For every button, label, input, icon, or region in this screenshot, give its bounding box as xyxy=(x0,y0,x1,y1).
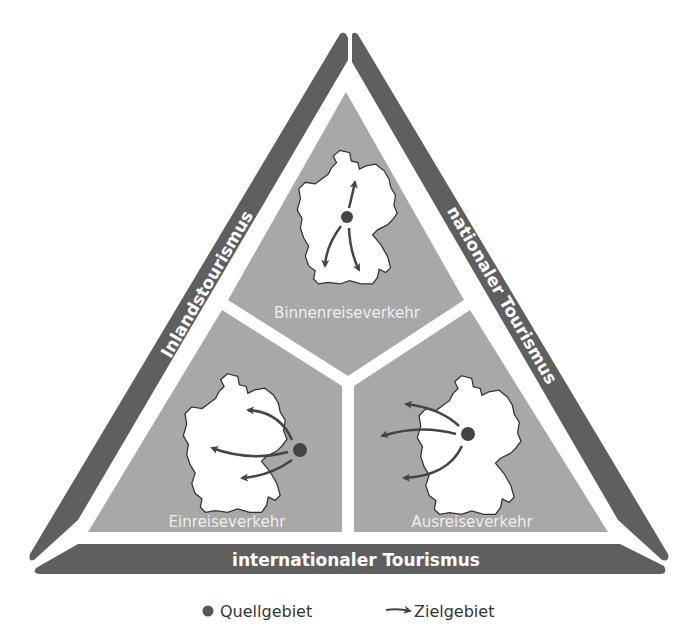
tourism-triangle-diagram: Binnenreiseverkehr Einreiseverkehr Ausre… xyxy=(0,0,689,626)
legend: Quellgebiet Zielgebiet xyxy=(203,602,495,621)
label-einreiseverkehr: Einreiseverkehr xyxy=(169,513,287,531)
source-dot-icon xyxy=(293,443,307,457)
source-dot-icon xyxy=(341,211,353,223)
label-ausreiseverkehr: Ausreiseverkehr xyxy=(411,513,533,531)
arrow-icon xyxy=(386,609,410,611)
source-dot-icon xyxy=(461,427,475,441)
legend-source-label: Quellgebiet xyxy=(220,602,312,621)
label-binnenreiseverkehr: Binnenreiseverkehr xyxy=(274,304,421,322)
source-dot-icon xyxy=(203,606,214,617)
legend-destination-label: Zielgebiet xyxy=(414,602,494,621)
label-internationaler-tourismus: internationaler Tourismus xyxy=(232,550,480,570)
